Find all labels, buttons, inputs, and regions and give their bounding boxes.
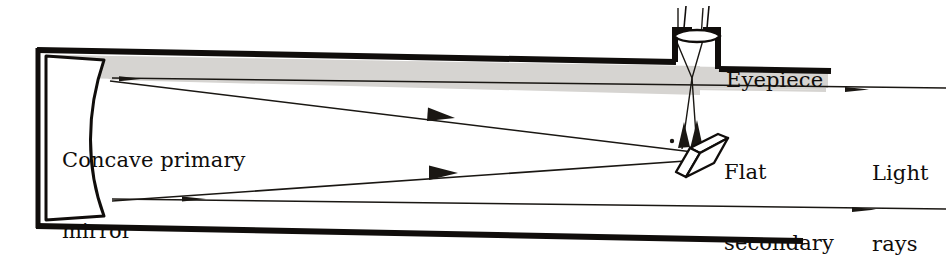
- telescope-diagram: Eyepiece Concave primary mirror Flat sec…: [0, 0, 947, 267]
- ray-hit-point: [670, 139, 674, 143]
- label-light-rays: Light rays: [872, 115, 929, 267]
- label-concave-primary-mirror: Concave primary mirror: [62, 102, 246, 267]
- label-primary-line-2: mirror: [62, 220, 246, 244]
- eyepiece-lens: [674, 30, 720, 42]
- label-primary-line-1: Concave primary: [62, 149, 246, 173]
- label-lightrays-line-1: Light: [872, 162, 929, 186]
- label-secondary-line-2: secondary: [724, 232, 834, 256]
- label-secondary-line-1: Flat: [724, 161, 834, 185]
- label-flat-secondary-mirror: Flat secondary mirror: [724, 114, 834, 267]
- exit-rays-to-eye: [684, 6, 709, 28]
- label-eyepiece-line-1: Eyepiece: [726, 69, 823, 93]
- label-lightrays-line-2: rays: [872, 233, 929, 257]
